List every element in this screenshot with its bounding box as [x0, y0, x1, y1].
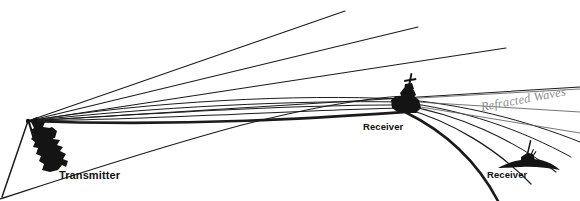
ray-2: [28, 27, 418, 121]
label-transmitter: Transmitter: [59, 169, 120, 181]
sonar-propagation-diagram: Transmitter Receiver Receiver Refracted …: [0, 0, 580, 201]
receiver-ship-mid: [391, 73, 421, 113]
ray-3: [28, 48, 506, 121]
receiver-mid-stack: [404, 83, 414, 90]
refracted-ray-3: [28, 105, 556, 172]
transmitter-ship: [26, 117, 68, 172]
receiver-mid-hull: [391, 96, 421, 113]
label-receiver-mid: Receiver: [363, 121, 403, 132]
downward-ray: [2, 121, 28, 197]
refracted-ray-group: [28, 97, 580, 201]
refracted-ray-thick: [28, 112, 498, 201]
transmitter-origin-node: [26, 119, 30, 123]
label-receiver-right: Receiver: [487, 169, 527, 180]
receiver-submarine-right: [498, 140, 560, 170]
transmitter-hull: [30, 117, 68, 172]
